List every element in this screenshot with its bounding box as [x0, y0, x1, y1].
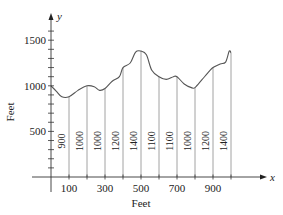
height-label: 1200	[200, 131, 211, 151]
height-label: 1400	[218, 131, 229, 151]
x-tick-label: 500	[133, 182, 150, 194]
height-label: 1100	[146, 131, 157, 151]
x-axis-arrow-icon	[260, 175, 267, 180]
y-axis-variable: y	[56, 10, 62, 22]
x-tick-label: 700	[169, 182, 186, 194]
vertical-height-labels: 900100010001200140011001100100012001400	[56, 131, 229, 151]
x-tick-label: 100	[61, 182, 78, 194]
y-tick-label: 1000	[24, 80, 47, 92]
vertical-height-lines	[69, 51, 231, 177]
x-tick-label: 900	[205, 182, 222, 194]
x-axis-title: Feet	[132, 197, 151, 209]
terrain-profile-chart: 900100010001200140011001100100012001400 …	[0, 0, 283, 215]
y-axis-title: Feet	[4, 103, 16, 122]
x-axis-tick-labels: 100300500700900	[61, 182, 222, 194]
y-tick-label: 1500	[24, 34, 47, 46]
height-label: 1000	[182, 131, 193, 151]
y-axis-arrow-icon	[49, 13, 54, 20]
height-label: 1100	[164, 131, 175, 151]
y-axis-tick-labels: 50010001500	[24, 34, 47, 137]
height-label: 900	[56, 134, 67, 149]
height-label: 1000	[74, 131, 85, 151]
x-tick-label: 300	[97, 182, 114, 194]
height-label: 1200	[110, 131, 121, 151]
x-axis-variable: x	[269, 171, 275, 183]
height-label: 1400	[128, 131, 139, 151]
height-label: 1000	[92, 131, 103, 151]
y-tick-label: 500	[30, 125, 47, 137]
